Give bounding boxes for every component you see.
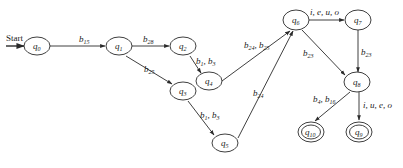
edge-label: i, e, u, o: [310, 7, 339, 17]
edge-q0-q1: b15: [50, 34, 105, 46]
edge-label: b1, b3: [196, 56, 216, 67]
edge-q8-q10: b4, b16: [313, 92, 350, 121]
edge-label: b28: [143, 34, 154, 45]
edge-label: i, u, e, o: [363, 100, 392, 110]
edge-label: b24: [253, 88, 264, 99]
state-q8: q8: [344, 72, 370, 92]
state-q7: q7: [345, 10, 371, 30]
edge-label: b23: [303, 48, 314, 59]
start-label: Start: [6, 33, 23, 43]
edges: b15 b28 b25 b1, b3 b1, b3 b24, b25: [50, 7, 392, 138]
edge-q6-q7: i, e, u, o: [309, 7, 344, 20]
edge-q1-q3: b25: [126, 56, 172, 84]
nodes: q0 q1 q2 q3 q4 q5 q6 q7: [24, 10, 372, 152]
state-q4: q4: [196, 72, 222, 90]
edge-label: b25: [144, 64, 155, 75]
start-arrow: Start: [6, 33, 24, 46]
state-q9-accepting: q9: [346, 122, 372, 142]
state-q5: q5: [212, 134, 238, 152]
state-q2: q2: [170, 37, 196, 55]
automaton-diagram: Start b15 b28 b25 b1, b3 b1, b3: [0, 0, 403, 168]
edge-q2-q4: b1, b3: [190, 56, 216, 73]
state-q0: q0: [24, 37, 50, 55]
edge-label: b23: [361, 47, 372, 58]
state-q6: q6: [283, 10, 309, 30]
edge-q7-q8: b23: [358, 30, 372, 72]
edge-label: b1, b3: [200, 110, 220, 121]
edge-label: b24, b25: [244, 40, 270, 51]
edge-q8-q9: i, u, e, o: [359, 92, 392, 120]
state-q3: q3: [170, 82, 196, 100]
edge-label: b4, b16: [313, 94, 336, 105]
edge-q1-q2: b28: [132, 34, 169, 46]
edge-q6-q8: b23: [302, 30, 345, 75]
state-q1: q1: [106, 37, 132, 55]
edge-label: b15: [79, 34, 90, 45]
state-q10-accepting: q10: [298, 122, 324, 142]
edge-q3-q5: b1, b3: [188, 101, 220, 135]
